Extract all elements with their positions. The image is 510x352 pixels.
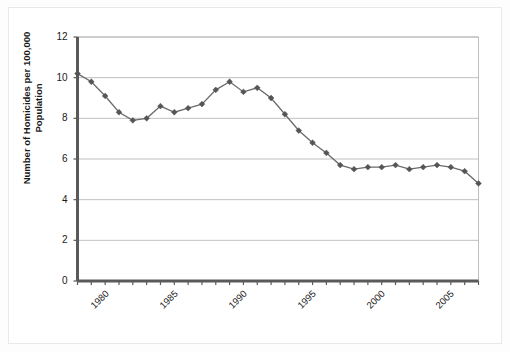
figure-canvas: Number of Homicides per 100,000 Populati…: [0, 0, 510, 352]
y-tick-label: 4: [42, 194, 68, 205]
y-tick-label: 8: [42, 112, 68, 123]
y-tick-label: 6: [42, 153, 68, 164]
y-tick-label: 10: [42, 72, 68, 83]
y-tick-label: 12: [42, 31, 68, 42]
y-tick-label: 2: [42, 234, 68, 245]
line-chart-svg: [0, 0, 510, 352]
chart-plot-area: Number of Homicides per 100,000 Populati…: [0, 0, 510, 352]
y-tick-label: 0: [42, 275, 68, 286]
